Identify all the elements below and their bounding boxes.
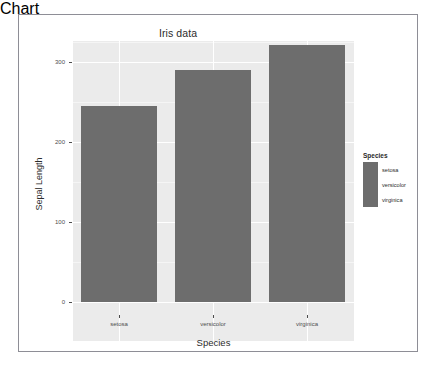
- legend-key-setosa: [363, 162, 378, 177]
- x-tick-label-versicolor: versicolor: [173, 321, 253, 327]
- legend-label-virginica: virginica: [382, 197, 403, 203]
- x-tick-mark-setosa: [119, 315, 120, 318]
- plot-frame: Iris data Sepal Length 300 200 100 0 set…: [18, 14, 418, 352]
- y-tick-mark-100: [69, 222, 72, 223]
- legend-item-virginica[interactable]: virginica: [363, 192, 406, 207]
- y-axis-title-label: Sepal Length: [34, 157, 44, 210]
- bar-virginica[interactable]: [269, 45, 345, 302]
- x-tick-mark-versicolor: [213, 315, 214, 318]
- x-axis-title: Species: [73, 337, 354, 348]
- legend-title: Species: [363, 152, 406, 159]
- legend-item-versicolor[interactable]: versicolor: [363, 177, 406, 192]
- chart-title: Iris data: [19, 27, 337, 39]
- y-tick-label-0: 0: [31, 299, 65, 305]
- y-tick-mark-0: [69, 302, 72, 303]
- legend-key-versicolor: [363, 177, 378, 192]
- bar-setosa[interactable]: [81, 106, 157, 302]
- legend-label-setosa: setosa: [382, 167, 398, 173]
- legend-key-virginica: [363, 192, 378, 207]
- y-tick-label-100: 100: [31, 219, 65, 225]
- legend-item-setosa[interactable]: setosa: [363, 162, 406, 177]
- legend-label-versicolor: versicolor: [382, 182, 406, 188]
- x-tick-mark-virginica: [307, 315, 308, 318]
- y-tick-label-300: 300: [31, 59, 65, 65]
- y-tick-label-200: 200: [31, 139, 65, 145]
- x-tick-label-setosa: setosa: [79, 321, 159, 327]
- plot-panel: [73, 41, 354, 341]
- bar-versicolor[interactable]: [175, 70, 251, 302]
- y-tick-mark-300: [69, 62, 72, 63]
- x-tick-label-virginica: virginica: [267, 321, 347, 327]
- y-tick-mark-200: [69, 142, 72, 143]
- legend: Species setosa versicolor virginica: [363, 152, 406, 207]
